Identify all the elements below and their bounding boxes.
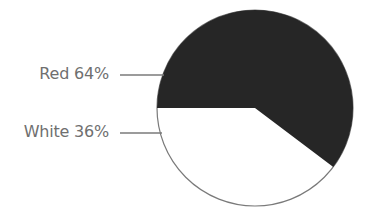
pie-chart	[0, 0, 369, 216]
label-white: White 36%	[24, 122, 109, 142]
label-red: Red 64%	[39, 64, 109, 84]
